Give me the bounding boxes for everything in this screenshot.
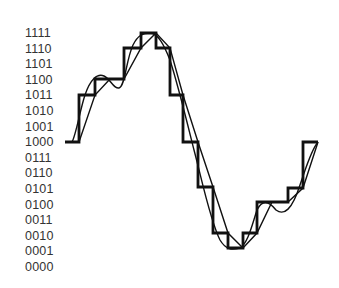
waveform-plot xyxy=(0,0,339,288)
interpolation-lines xyxy=(79,33,318,248)
